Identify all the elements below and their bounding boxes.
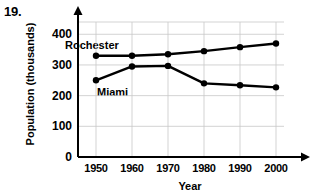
series-line-miami xyxy=(96,66,276,87)
data-point-miami-2000 xyxy=(273,84,279,90)
data-point-rochester-1950 xyxy=(93,53,99,59)
plot-area xyxy=(0,0,314,196)
data-point-miami-1980 xyxy=(201,80,207,86)
data-point-miami-1990 xyxy=(237,82,243,88)
data-point-rochester-1980 xyxy=(201,48,207,54)
data-point-rochester-1960 xyxy=(129,53,135,59)
data-point-miami-1960 xyxy=(129,63,135,69)
data-point-miami-1950 xyxy=(93,77,99,83)
y-axis-arrow xyxy=(74,6,83,15)
data-point-rochester-1990 xyxy=(237,44,243,50)
data-point-rochester-2000 xyxy=(273,40,279,46)
series-line-rochester xyxy=(96,43,276,55)
data-point-miami-1970 xyxy=(165,63,171,69)
x-axis-arrow xyxy=(301,153,310,162)
data-point-rochester-1970 xyxy=(165,51,171,57)
population-line-chart-figure: 19. Population (thousands) Year 0 100 20… xyxy=(0,0,314,196)
